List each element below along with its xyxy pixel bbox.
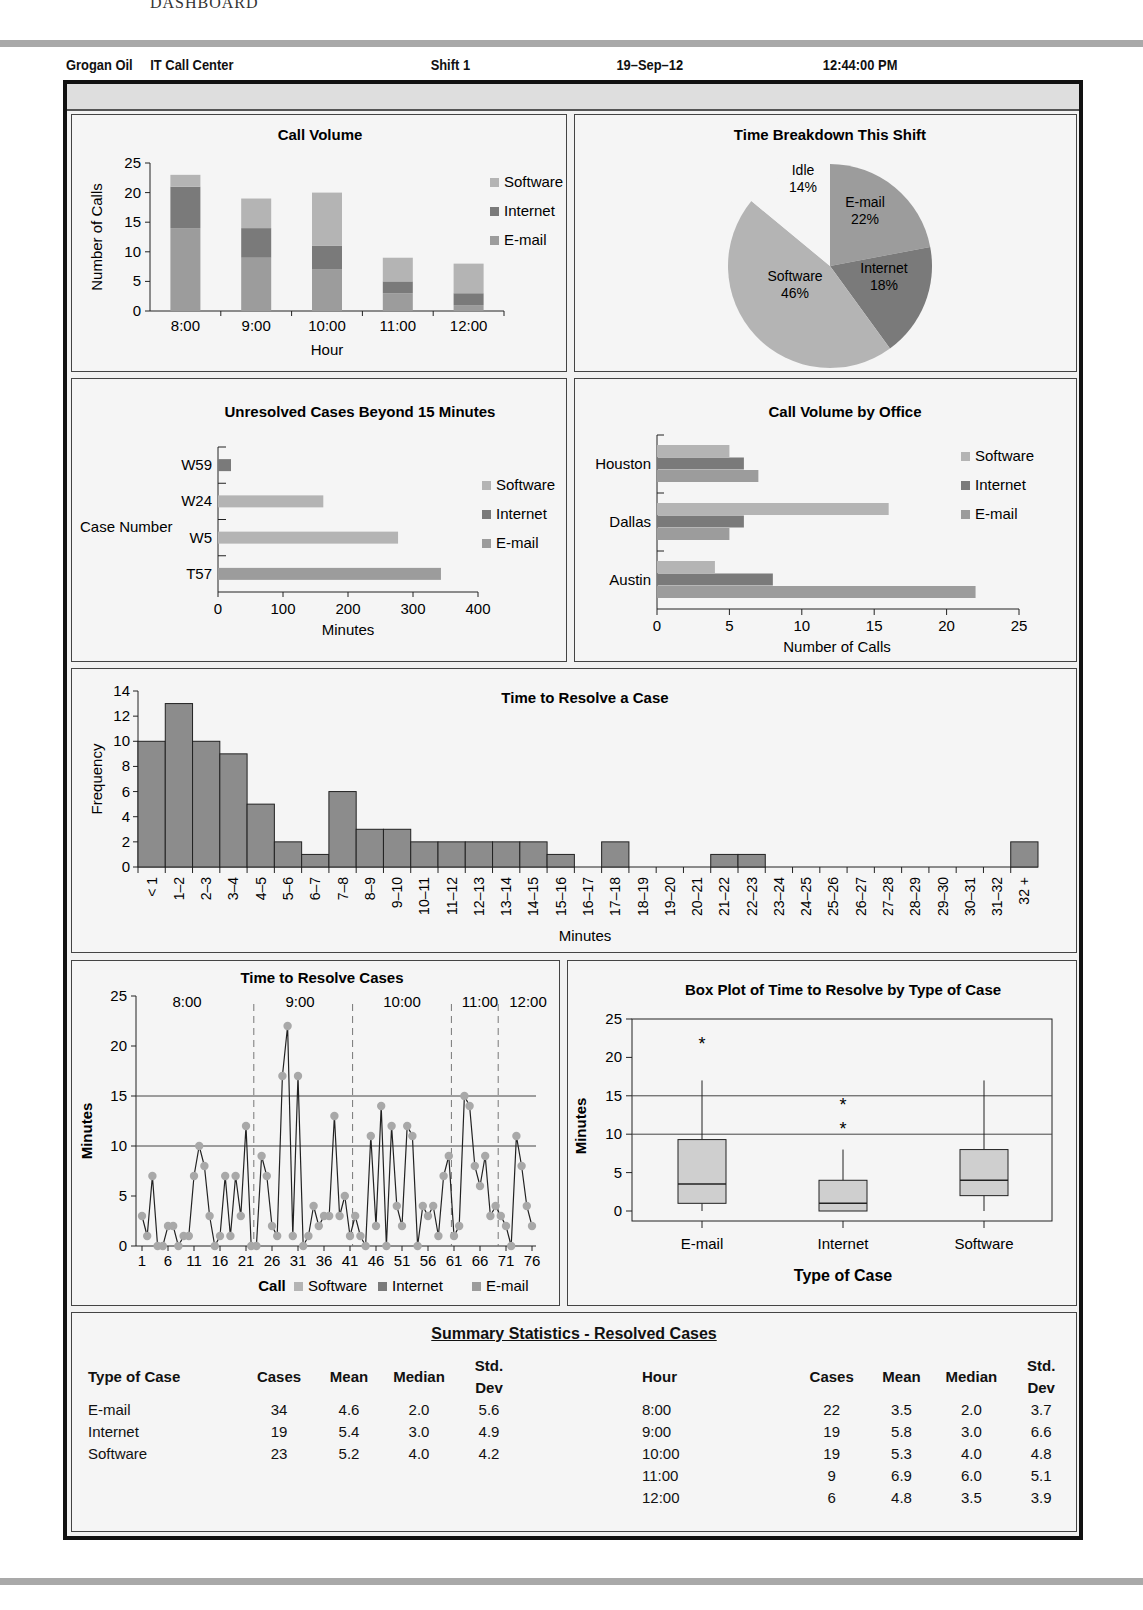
dashboard-frame: Call Volume05101520258:009:0010:0011:001… bbox=[63, 80, 1083, 1540]
column-header: Std. Dev bbox=[1006, 1355, 1076, 1399]
bar-segment bbox=[241, 228, 271, 258]
x-tick-label: 21 bbox=[238, 1252, 255, 1269]
table-cell: 10:00 bbox=[636, 1443, 797, 1465]
x-tick-label: 400 bbox=[465, 600, 490, 617]
x-tick-label: 10 bbox=[793, 617, 810, 634]
x-tick-label: E-mail bbox=[681, 1235, 724, 1252]
data-point bbox=[491, 1202, 499, 1210]
y-tick-label: 0 bbox=[133, 302, 141, 319]
outlier: * bbox=[839, 1095, 846, 1115]
table-cell: 12:00 bbox=[636, 1487, 797, 1509]
x-tick-label: 5–6 bbox=[280, 877, 296, 901]
column-header: Std. Dev bbox=[454, 1355, 524, 1399]
table-cell: 19 bbox=[244, 1421, 314, 1443]
data-point bbox=[424, 1212, 432, 1220]
data-point bbox=[346, 1232, 354, 1240]
chart-title: Unresolved Cases Beyond 15 Minutes bbox=[225, 403, 496, 420]
data-point bbox=[330, 1112, 338, 1120]
table-cell: 4.0 bbox=[384, 1443, 454, 1465]
data-point bbox=[517, 1162, 525, 1170]
bar bbox=[657, 516, 744, 528]
table-cell: 4.9 bbox=[454, 1421, 524, 1443]
department-name: IT Call Center bbox=[150, 56, 233, 73]
data-point bbox=[169, 1222, 177, 1230]
x-tick-label: 8–9 bbox=[362, 877, 378, 901]
column-header: Median bbox=[384, 1355, 454, 1399]
data-point bbox=[289, 1232, 297, 1240]
table-cell: Software bbox=[82, 1443, 244, 1465]
table-row: 8:00223.52.03.7 bbox=[636, 1399, 1076, 1421]
legend-swatch bbox=[482, 539, 491, 548]
data-point bbox=[356, 1232, 364, 1240]
table-row: 10:00195.34.04.8 bbox=[636, 1443, 1076, 1465]
hour-label: 8:00 bbox=[172, 993, 201, 1010]
date-label: 19–Sep–12 bbox=[616, 56, 683, 73]
data-point bbox=[304, 1232, 312, 1240]
legend-label: E-mail bbox=[504, 231, 547, 248]
bar-segment bbox=[454, 305, 484, 311]
x-axis-label: Minutes bbox=[322, 621, 375, 638]
data-point bbox=[512, 1132, 520, 1140]
y-tick-label: T57 bbox=[186, 565, 212, 582]
chart-title: Time to Resolve a Case bbox=[501, 689, 668, 706]
y-tick-label: W5 bbox=[190, 529, 213, 546]
table-cell: 3.5 bbox=[936, 1487, 1006, 1509]
histogram-bar bbox=[247, 804, 274, 867]
data-point bbox=[450, 1232, 458, 1240]
data-point bbox=[216, 1232, 224, 1240]
table-cell: 5.8 bbox=[867, 1421, 937, 1443]
histogram-bar bbox=[383, 829, 410, 867]
x-tick-label: 27–28 bbox=[880, 877, 896, 916]
histogram-bar bbox=[220, 754, 247, 867]
data-point bbox=[460, 1092, 468, 1100]
data-point bbox=[445, 1152, 453, 1160]
y-axis-label: Frequency bbox=[88, 743, 105, 814]
bar bbox=[657, 458, 744, 470]
data-point bbox=[351, 1212, 359, 1220]
hour-label: 11:00 bbox=[462, 993, 498, 1010]
data-point bbox=[398, 1222, 406, 1230]
x-tick-label: 76 bbox=[524, 1252, 541, 1269]
box bbox=[960, 1150, 1008, 1196]
x-tick-label: 20–21 bbox=[689, 877, 705, 916]
slice-value: 14% bbox=[789, 179, 817, 195]
x-tick-label: 31 bbox=[290, 1252, 307, 1269]
x-tick-label: 17–18 bbox=[607, 877, 623, 916]
y-tick-label: 15 bbox=[124, 213, 141, 230]
table-row: 12:0064.83.53.9 bbox=[636, 1487, 1076, 1509]
panel-unresolved: Unresolved Cases Beyond 15 Minutes010020… bbox=[71, 378, 567, 662]
panel-summary: Summary Statistics - Resolved Cases Type… bbox=[71, 1312, 1077, 1532]
x-tick-label: 11–12 bbox=[444, 877, 460, 915]
x-tick-label: 10–11 bbox=[416, 877, 432, 915]
chart-title: Call Volume by Office bbox=[768, 403, 921, 420]
x-tick-label: 11:00 bbox=[380, 317, 416, 334]
y-axis-label: Minutes bbox=[78, 1103, 95, 1160]
x-tick-label: 1 bbox=[138, 1252, 146, 1269]
x-tick-label: 10:00 bbox=[308, 317, 346, 334]
data-point bbox=[507, 1242, 515, 1250]
x-tick-label: 9–10 bbox=[389, 877, 405, 908]
outlier: * bbox=[839, 1119, 846, 1139]
legend-swatch bbox=[378, 1282, 387, 1291]
table-cell: 5.1 bbox=[1006, 1465, 1076, 1487]
x-tick-label: 51 bbox=[394, 1252, 411, 1269]
x-tick-label: 21–22 bbox=[716, 877, 732, 916]
data-point bbox=[471, 1162, 479, 1170]
x-tick-label: 6–7 bbox=[307, 877, 323, 901]
column-header: Mean bbox=[867, 1355, 937, 1399]
x-tick-label: 66 bbox=[472, 1252, 489, 1269]
x-tick-label: 5 bbox=[725, 617, 733, 634]
legend-swatch bbox=[961, 481, 970, 490]
data-point bbox=[252, 1242, 260, 1250]
box bbox=[819, 1180, 867, 1211]
bar-segment bbox=[170, 187, 200, 228]
legend-swatch bbox=[482, 510, 491, 519]
x-tick-label: 6 bbox=[164, 1252, 172, 1269]
table-cell: Internet bbox=[82, 1421, 244, 1443]
y-tick-label: 14 bbox=[113, 682, 130, 699]
data-point bbox=[200, 1162, 208, 1170]
table-cell: 9:00 bbox=[636, 1421, 797, 1443]
bar bbox=[657, 528, 729, 540]
legend-swatch bbox=[490, 178, 499, 187]
table-cell: 6.0 bbox=[936, 1465, 1006, 1487]
